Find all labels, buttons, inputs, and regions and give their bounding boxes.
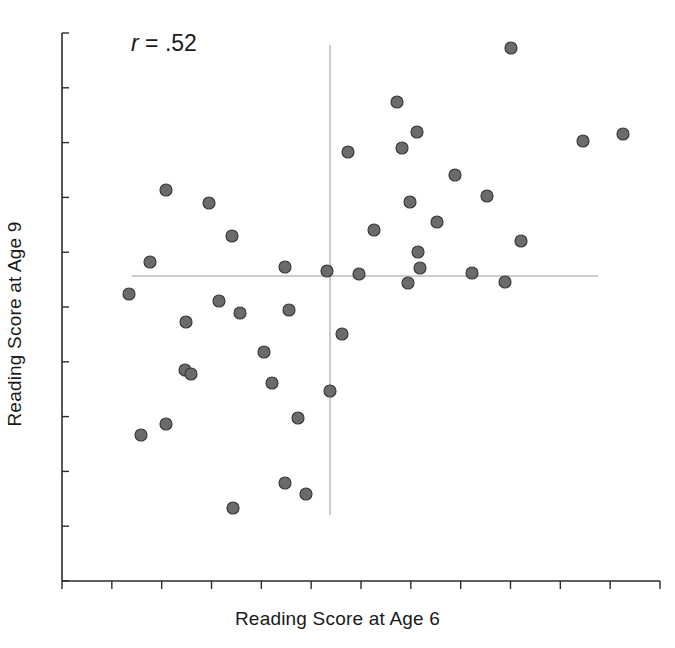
- scatter-point: [404, 196, 416, 208]
- scatter-point: [368, 224, 380, 236]
- scatter-point: [449, 169, 461, 181]
- scatter-point: [227, 502, 239, 514]
- axes: [62, 33, 660, 589]
- correlation-symbol: r: [131, 30, 139, 56]
- scatter-point: [258, 346, 270, 358]
- scatter-point: [266, 377, 278, 389]
- scatter-point: [160, 418, 172, 430]
- scatter-point: [292, 412, 304, 424]
- scatter-point: [123, 288, 135, 300]
- scatter-point: [617, 128, 629, 140]
- scatter-point: [234, 307, 246, 319]
- scatter-point: [336, 328, 348, 340]
- scatter-point: [414, 262, 426, 274]
- scatter-point: [353, 268, 365, 280]
- scatter-point: [160, 184, 172, 196]
- scatter-point: [391, 96, 403, 108]
- data-points: [123, 42, 629, 514]
- reference-lines: [132, 45, 598, 515]
- scatter-point: [203, 197, 215, 209]
- scatter-point: [144, 256, 156, 268]
- scatter-point: [135, 429, 147, 441]
- scatter-point: [411, 126, 423, 138]
- scatter-point: [481, 190, 493, 202]
- scatter-point: [279, 261, 291, 273]
- scatter-point: [180, 316, 192, 328]
- scatter-point: [402, 277, 414, 289]
- scatter-point: [505, 42, 517, 54]
- scatter-point: [324, 385, 336, 397]
- scatter-point: [431, 216, 443, 228]
- scatter-point: [577, 135, 589, 147]
- scatter-point: [412, 246, 424, 258]
- scatter-point: [321, 265, 333, 277]
- x-axis-label: Reading Score at Age 6: [0, 608, 675, 630]
- scatter-point: [342, 146, 354, 158]
- scatter-point: [279, 477, 291, 489]
- scatter-point: [515, 235, 527, 247]
- scatter-point: [283, 304, 295, 316]
- scatter-point: [499, 276, 511, 288]
- y-axis-label: Reading Score at Age 9: [0, 0, 30, 648]
- correlation-value: = .52: [139, 30, 197, 56]
- scatter-point: [185, 368, 197, 380]
- scatter-point: [396, 142, 408, 154]
- scatter-point: [300, 488, 312, 500]
- scatter-point: [213, 295, 225, 307]
- plot-canvas: [0, 0, 675, 648]
- scatter-point: [226, 230, 238, 242]
- correlation-annotation: r = .52: [131, 30, 197, 57]
- scatter-plot-figure: r = .52 Reading Score at Age 6 Reading S…: [0, 0, 675, 648]
- scatter-point: [466, 267, 478, 279]
